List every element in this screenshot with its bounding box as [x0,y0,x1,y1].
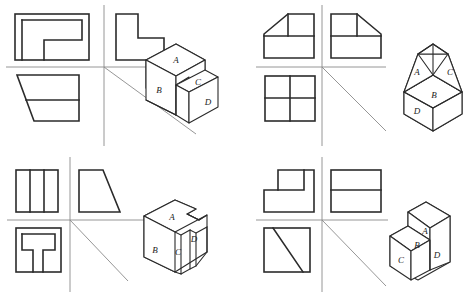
axis-miter-diagonal [322,67,386,131]
view-front-view-4 [331,170,381,212]
view-top-view-2 [264,14,314,58]
face-label-C: C [175,247,182,257]
view-side-view-1 [17,75,79,121]
face-label-D: D [190,234,198,244]
view-side-view-3 [16,228,61,272]
face-label-C: C [398,255,405,265]
view-top-view-3 [16,170,58,212]
panel-2: A B C D [238,0,476,151]
panel-1: A B C D [0,0,238,151]
panel-3: A B C D [0,152,238,303]
solid-two-step-block: A B C D [390,202,450,280]
face-label-B: B [152,245,158,255]
solid-grooved-wedge-block: A B C D [144,200,207,274]
view-front-view-2 [331,14,381,58]
face-label-C: C [447,67,454,77]
face-label-C: C [195,77,202,87]
face-label-A: A [168,212,175,222]
face-label-A: A [172,55,179,65]
panel-4: A B C D [238,152,476,303]
face-label-B: B [431,90,437,100]
face-label-B: B [156,85,162,95]
face-label-D: D [433,250,441,260]
axis-miter-diagonal [70,220,128,281]
face-label-A: A [413,67,420,77]
solid-hip-roof-on-base: A B C D [404,44,462,131]
drawing-sheet: A B C D [0,0,476,303]
face-label-D: D [204,97,212,107]
view-top-view-1 [15,14,89,60]
view-front-view-1 [116,14,164,60]
view-side-view-2 [265,76,315,121]
face-label-A: A [421,226,428,236]
solid-stepped-block: A B C D [146,44,218,123]
view-top-view-4 [264,170,314,212]
view-front-view-3 [79,170,120,212]
axis-miter-diagonal [322,220,386,286]
face-label-B: B [414,240,420,250]
view-side-view-4 [264,228,310,272]
face-label-D: D [413,106,421,116]
